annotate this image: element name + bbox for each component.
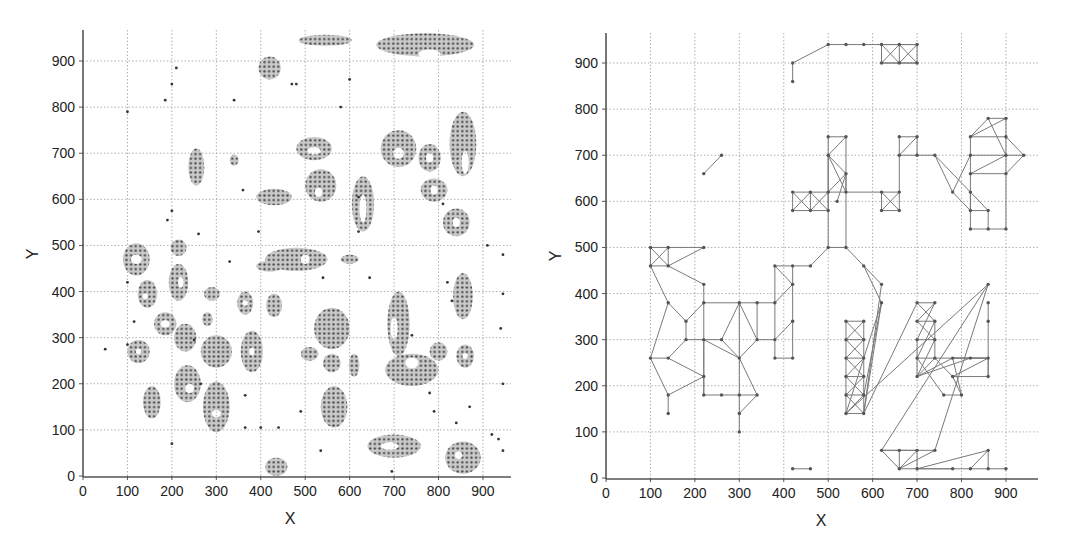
left-x-axis-label: X <box>285 510 296 527</box>
graph-node <box>809 209 812 212</box>
sensor-cluster <box>228 153 241 168</box>
sensor-cluster <box>299 345 321 363</box>
graph-node <box>898 154 901 157</box>
x-tick-label: 400 <box>772 485 796 501</box>
graph-node <box>827 190 830 193</box>
graph-node <box>915 338 918 341</box>
graph-edge <box>739 340 757 358</box>
sensor-cluster <box>239 329 265 374</box>
graph-edge <box>970 118 988 136</box>
sensor-cluster <box>169 237 189 258</box>
graph-node <box>791 356 794 359</box>
graph-edge <box>722 303 740 340</box>
graph-node <box>1004 467 1007 470</box>
graph-edge <box>882 450 900 468</box>
graph-node <box>862 375 865 378</box>
y-tick-label: 900 <box>52 53 76 69</box>
y-tick-label: 100 <box>575 424 599 440</box>
y-tick-label: 200 <box>52 376 76 392</box>
sensor-cluster <box>199 333 234 369</box>
graph-node <box>969 356 972 359</box>
graph-edge <box>668 358 704 376</box>
isolated-point <box>126 281 129 284</box>
graph-node <box>720 338 723 341</box>
isolated-point <box>277 426 280 429</box>
x-tick-label: 300 <box>728 485 752 501</box>
graph-node <box>880 301 883 304</box>
graph-edge <box>668 340 686 358</box>
sensor-cluster <box>254 259 285 274</box>
graph-node <box>791 283 794 286</box>
sensor-cluster <box>121 241 152 277</box>
graph-edge <box>917 450 988 468</box>
y-tick-label: 100 <box>52 422 76 438</box>
graph-node <box>667 246 670 249</box>
graph-node <box>942 393 945 396</box>
graph-node <box>969 209 972 212</box>
sensor-cluster <box>321 352 343 374</box>
y-tick-label: 600 <box>575 193 599 209</box>
isolated-point <box>104 348 107 351</box>
sensor-cluster <box>172 322 198 354</box>
isolated-point <box>486 244 489 247</box>
graph-node <box>791 61 794 64</box>
graph-node <box>986 320 989 323</box>
sensor-cluster <box>200 310 215 328</box>
y-tick-label: 800 <box>575 101 599 117</box>
sensor-cluster <box>319 384 350 429</box>
graph-node <box>898 190 901 193</box>
isolated-point <box>497 438 500 441</box>
graph-node <box>862 43 865 46</box>
sensor-cluster <box>264 292 284 319</box>
isolated-point <box>295 83 298 86</box>
graph-node <box>702 246 705 249</box>
y-tick-label: 800 <box>52 99 76 115</box>
isolated-point <box>357 230 360 233</box>
graph-node <box>738 356 741 359</box>
x-tick-label: 300 <box>205 483 229 499</box>
isolated-point <box>126 343 129 346</box>
graph-edge <box>704 340 740 358</box>
isolated-point <box>499 327 502 330</box>
graph-edge <box>650 358 668 395</box>
isolated-point <box>193 339 196 342</box>
x-tick-label: 800 <box>950 485 974 501</box>
graph-node <box>986 467 989 470</box>
graph-node <box>915 154 918 157</box>
y-tick-label: 500 <box>575 239 599 255</box>
graph-node <box>1004 117 1007 120</box>
graph-node <box>986 301 989 304</box>
graph-edge <box>935 155 971 192</box>
graph-edge <box>917 321 935 339</box>
graph-edge <box>1006 137 1024 155</box>
graph-edge <box>828 137 846 155</box>
graph-node <box>915 61 918 64</box>
graph-node <box>1004 172 1007 175</box>
graph-node <box>791 80 794 83</box>
graph-node <box>844 412 847 415</box>
graph-node <box>1004 154 1007 157</box>
sensor-cluster <box>385 290 411 359</box>
sensor-cluster <box>347 352 362 379</box>
left-y-tick-labels: 0100200300400500600700800900 <box>52 53 83 484</box>
graph-node <box>835 200 838 203</box>
isolated-point <box>502 382 505 385</box>
graph-edge <box>668 247 704 265</box>
graph-node <box>773 356 776 359</box>
graph-node <box>915 320 918 323</box>
graph-node <box>951 375 954 378</box>
sensor-cluster <box>257 54 283 81</box>
isolated-point <box>175 67 178 70</box>
graph-node <box>951 190 954 193</box>
graph-edge <box>970 118 1006 136</box>
sensor-cluster <box>441 207 472 239</box>
graph-node <box>844 320 847 323</box>
graph-edge <box>722 340 740 358</box>
graph-node <box>862 393 865 396</box>
sensor-cluster <box>350 174 376 233</box>
y-tick-label: 500 <box>52 237 76 253</box>
isolated-point <box>502 449 505 452</box>
graph-node <box>915 43 918 46</box>
isolated-point <box>428 392 431 395</box>
graph-node <box>969 154 972 157</box>
